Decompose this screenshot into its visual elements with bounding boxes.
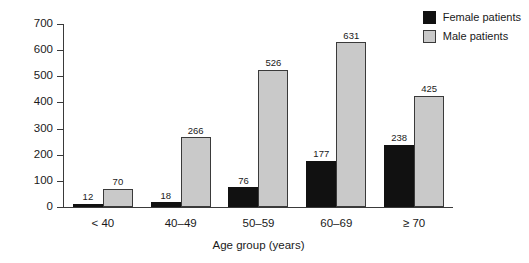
bar-value-label: 266 <box>188 126 204 136</box>
bar-value-label: 238 <box>391 133 407 143</box>
y-axis-tick: 400 <box>57 102 63 103</box>
bar-male[interactable] <box>258 70 288 208</box>
bar-value-label: 631 <box>343 31 359 41</box>
bar-group: 177631 <box>297 24 375 207</box>
y-axis-tick-label: 600 <box>34 44 53 56</box>
legend-swatch-female-icon <box>423 11 436 24</box>
y-axis-tick-label: 200 <box>34 149 53 161</box>
y-axis-tick: 0 <box>57 207 63 208</box>
y-axis-tick-label: 0 <box>47 201 53 213</box>
y-axis-tick: 500 <box>57 76 63 77</box>
bar-value-label: 177 <box>313 149 329 159</box>
x-axis-category-label: 40–49 <box>142 218 220 230</box>
bar-value-label: 70 <box>113 177 124 187</box>
bar-female[interactable] <box>73 204 103 207</box>
bar-slot: 76 <box>228 24 258 207</box>
bar-group: 1270 <box>64 24 142 207</box>
bar-value-label: 76 <box>238 176 249 186</box>
bar-groups: 12701826676526177631238425 <box>64 24 453 207</box>
bar-slot: 12 <box>73 24 103 207</box>
x-axis-line <box>63 207 453 208</box>
bar-value-label: 526 <box>266 58 282 68</box>
y-axis-tick: 100 <box>57 181 63 182</box>
bar-female[interactable] <box>306 161 336 207</box>
bar-value-label: 12 <box>83 192 94 202</box>
bar-value-label: 425 <box>421 84 437 94</box>
bar-group: 238425 <box>375 24 453 207</box>
bar-group: 18266 <box>142 24 220 207</box>
bar-slot: 425 <box>414 24 444 207</box>
y-axis-tick-label: 500 <box>34 71 53 83</box>
bar-value-label: 18 <box>160 191 171 201</box>
bar-group: 76526 <box>220 24 298 207</box>
y-axis-tick-label: 300 <box>34 123 53 135</box>
bar-male[interactable] <box>181 137 211 207</box>
y-axis-tick-label: 100 <box>34 175 53 187</box>
bar-chart: Female patients Male patients 0100200300… <box>0 0 529 263</box>
x-axis-title: Age group (years) <box>64 240 453 252</box>
bar-female[interactable] <box>228 187 258 207</box>
bar-male[interactable] <box>103 189 133 207</box>
y-axis-tick-label: 700 <box>34 18 53 30</box>
bar-slot: 70 <box>103 24 133 207</box>
bar-slot: 526 <box>258 24 288 207</box>
legend-item-female: Female patients <box>423 10 521 24</box>
x-axis-category-labels: < 4040–4950–5960–69≥ 70 <box>64 218 453 230</box>
y-axis-tick: 600 <box>57 50 63 51</box>
y-axis-tick-label: 400 <box>34 97 53 109</box>
x-axis-category-label: 50–59 <box>220 218 298 230</box>
legend-label-female: Female patients <box>443 12 521 23</box>
x-axis-category-label: ≥ 70 <box>375 218 453 230</box>
bar-male[interactable] <box>336 42 366 207</box>
plot-area: 0100200300400500600700 12701826676526177… <box>63 24 453 208</box>
bar-slot: 266 <box>181 24 211 207</box>
bar-female[interactable] <box>151 202 181 207</box>
y-axis-tick: 700 <box>57 24 63 25</box>
y-axis-tick: 200 <box>57 155 63 156</box>
bar-slot: 238 <box>384 24 414 207</box>
x-axis-category-label: 60–69 <box>297 218 375 230</box>
bar-female[interactable] <box>384 145 414 207</box>
bar-male[interactable] <box>414 96 444 207</box>
bar-slot: 631 <box>336 24 366 207</box>
bar-slot: 18 <box>151 24 181 207</box>
x-axis-category-label: < 40 <box>64 218 142 230</box>
y-axis-tick: 300 <box>57 129 63 130</box>
bar-slot: 177 <box>306 24 336 207</box>
